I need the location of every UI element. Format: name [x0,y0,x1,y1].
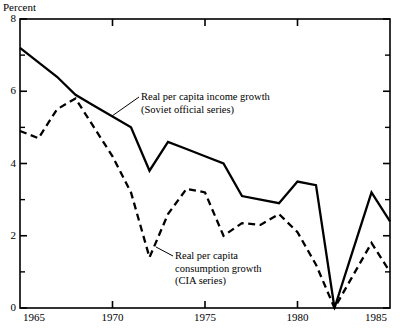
consumption-annotation-line: Real per capita [175,250,262,263]
consumption-annotation-line: (CIA series) [175,275,262,288]
consumption-annotation-leader [156,247,173,256]
x-tick-label: 1985 [356,312,396,323]
x-tick-label: 1975 [185,312,225,323]
income-annotation-leader [112,97,139,116]
y-tick-label: 4 [2,158,16,169]
y-tick-label: 8 [2,13,16,24]
consumption-annotation-line: consumption growth [175,263,262,276]
consumption-annotation: Real per capitaconsumption growth(CIA se… [175,250,262,288]
y-axis-minor-ticks [20,55,390,272]
chart-figure: Percent 02468 19651970197519801985 Real … [0,0,405,331]
income-annotation-line: Real per capita income growth [141,91,270,104]
x-tick-label: 1965 [14,312,54,323]
y-tick-label: 2 [2,230,16,241]
x-tick-label: 1980 [278,312,318,323]
income-annotation: Real per capita income growth(Soviet off… [141,91,270,116]
y-tick-label: 6 [2,85,16,96]
income-annotation-line: (Soviet official series) [141,104,270,117]
x-tick-label: 1970 [93,312,133,323]
